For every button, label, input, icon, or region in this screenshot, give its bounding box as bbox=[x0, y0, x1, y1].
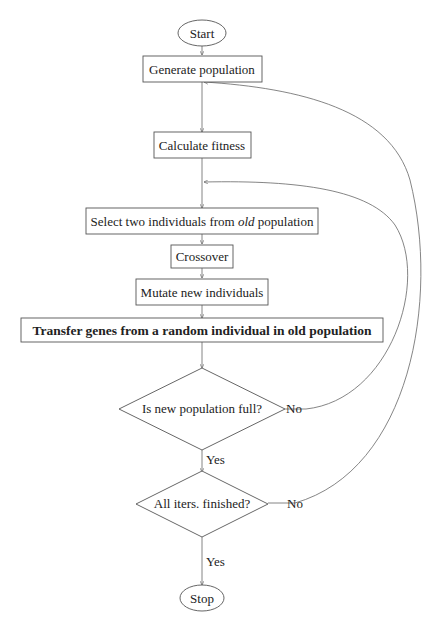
full-yes-label: Yes bbox=[206, 452, 225, 467]
crossover-label: Crossover bbox=[176, 249, 229, 264]
transfer-genes-node: Transfer genes from a random individual … bbox=[21, 318, 383, 342]
generate-population-node: Generate population bbox=[143, 56, 262, 82]
iters-yes-label: Yes bbox=[206, 554, 225, 569]
full-no-label: No bbox=[286, 401, 302, 416]
stop-label: Stop bbox=[190, 591, 214, 606]
full-question-label: Is new population full? bbox=[142, 401, 262, 416]
select-label: Select two individuals from old populati… bbox=[91, 214, 314, 229]
fitness-label: Calculate fitness bbox=[159, 138, 245, 153]
select-individuals-node: Select two individuals from old populati… bbox=[86, 208, 318, 234]
flowchart: Start Generate population Calculate fitn… bbox=[0, 0, 442, 620]
mutate-node: Mutate new individuals bbox=[136, 279, 268, 305]
iters-no-label: No bbox=[287, 496, 303, 511]
iters-question-label: All iters. finished? bbox=[154, 496, 251, 511]
start-label: Start bbox=[190, 26, 215, 41]
iterations-finished-decision: All iters. finished? bbox=[136, 471, 268, 537]
calculate-fitness-node: Calculate fitness bbox=[154, 132, 251, 158]
generate-label: Generate population bbox=[149, 62, 255, 77]
mutate-label: Mutate new individuals bbox=[141, 285, 264, 300]
crossover-node: Crossover bbox=[171, 245, 233, 268]
start-node: Start bbox=[178, 20, 226, 46]
transfer-label: Transfer genes from a random individual … bbox=[32, 323, 372, 338]
stop-node: Stop bbox=[180, 585, 224, 611]
population-full-decision: Is new population full? bbox=[119, 368, 285, 450]
